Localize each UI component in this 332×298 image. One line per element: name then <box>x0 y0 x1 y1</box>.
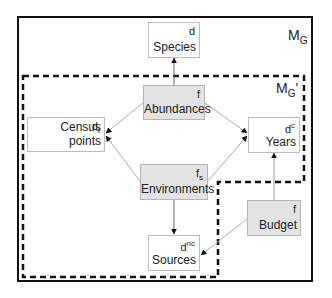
node-environments: fs Environments <box>140 164 208 200</box>
node-budget: f Budget <box>247 200 301 236</box>
node-years: dc Years <box>248 117 300 153</box>
budget-tag: f <box>293 203 296 215</box>
environments-label: Environments <box>141 182 204 196</box>
abundances-tag: f <box>197 88 200 100</box>
node-abundances: f Abundances <box>143 85 205 120</box>
node-species: d Species <box>148 22 200 58</box>
node-sources: dnc Sources <box>148 235 200 271</box>
sources-tag: dnc <box>180 238 195 253</box>
sources-label: Sources <box>149 253 196 267</box>
edge-budget-sources <box>201 219 247 255</box>
species-tag: d <box>189 25 195 37</box>
outer-model-label: MG <box>288 27 307 46</box>
years-tag: dc <box>285 120 295 135</box>
years-label: Years <box>249 135 296 149</box>
edge-environments-census <box>106 136 140 181</box>
abundances-label: Abundances <box>144 102 201 116</box>
node-census-points: dt Census points <box>27 117 105 152</box>
edge-abundances-census <box>106 103 143 133</box>
species-label: Species <box>149 40 196 54</box>
budget-label: Budget <box>248 218 297 232</box>
edge-abundances-years <box>205 103 247 133</box>
census-points-label: Census points <box>28 120 101 148</box>
edge-environments-years <box>208 136 247 181</box>
inner-model-label: MG' <box>276 80 298 99</box>
